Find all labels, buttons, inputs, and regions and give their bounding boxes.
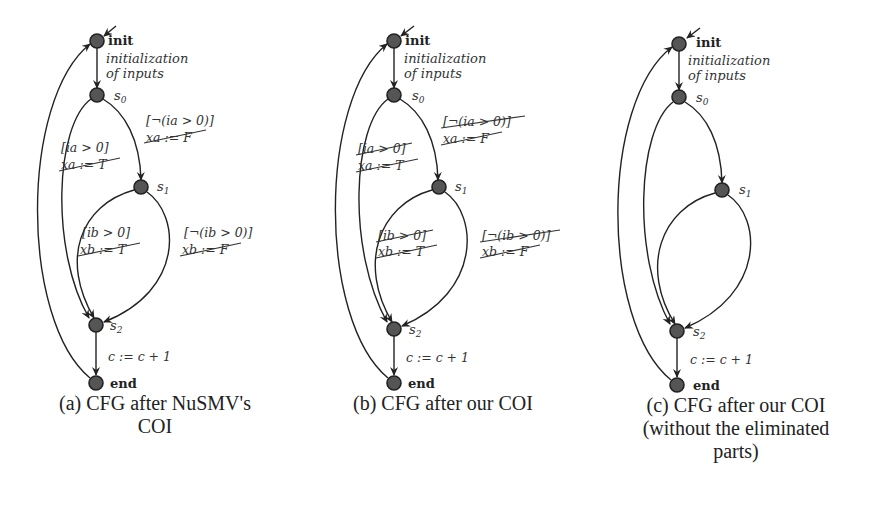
- node-s2: [89, 318, 103, 332]
- caption-c-line-3: parts): [598, 440, 874, 463]
- edge-s0-s1: [685, 102, 722, 183]
- node-s1: [134, 180, 148, 194]
- guard-s0-false: [¬(ia > 0)]: [146, 113, 214, 128]
- edge-s1-s2-false: [402, 192, 467, 326]
- edge-s0-s1: [103, 99, 141, 180]
- caption-b-line-1: (b) CFG after our COI: [318, 392, 568, 415]
- label-s1: s1: [157, 179, 169, 196]
- label-s0: s0: [114, 88, 127, 105]
- label-s1: s1: [455, 179, 467, 196]
- label-s0: s0: [696, 90, 709, 107]
- label-init-edge-2: of inputs: [404, 66, 462, 81]
- edge-s0-s1: [400, 99, 438, 180]
- label-init-edge-2: of inputs: [688, 68, 746, 83]
- node-s0: [387, 88, 401, 102]
- node-end: [387, 376, 401, 390]
- edge-s1-s2-left: [658, 193, 715, 324]
- node-s0: [90, 88, 104, 102]
- label-end: end: [693, 378, 720, 393]
- caption-a: (a) CFG after NuSMV's COI: [20, 392, 290, 438]
- node-init: [90, 34, 104, 48]
- guard-s1-true: [ib > 0]: [378, 228, 426, 243]
- node-s2: [670, 324, 684, 338]
- node-init: [387, 34, 401, 48]
- label-s2-edge: c := c + 1: [690, 352, 753, 367]
- edge-end-init: [618, 47, 672, 380]
- label-s2-edge: c := c + 1: [406, 350, 469, 365]
- caption-a-line-2: COI: [20, 415, 290, 438]
- edge-s1-s2-right: [685, 195, 751, 328]
- assign-s0-false: xa := F: [443, 131, 490, 146]
- label-s0: s0: [412, 88, 425, 105]
- node-s1: [432, 180, 446, 194]
- edge-s0-s2: [359, 99, 388, 322]
- label-s2: s2: [110, 318, 123, 335]
- panel-b-graph: init initialization of inputs s0 s1 s2 e…: [335, 26, 560, 391]
- assign-s1-false: xb := F: [182, 242, 230, 257]
- label-init: init: [405, 33, 430, 48]
- panel-a-graph: init initialization of inputs s0 s1 s2 e…: [38, 26, 253, 391]
- edge-s0-s2: [62, 99, 91, 318]
- caption-a-line-1: (a) CFG after NuSMV's: [20, 392, 290, 415]
- node-init: [672, 37, 686, 51]
- node-s2: [387, 322, 401, 336]
- label-init-edge-2: of inputs: [106, 66, 164, 81]
- edge-end-init: [335, 44, 388, 378]
- node-end: [670, 378, 684, 392]
- guard-s1-true: [ib > 0]: [82, 225, 130, 240]
- label-s2: s2: [409, 322, 422, 339]
- caption-c-line-1: (c) CFG after our COI: [598, 394, 874, 417]
- caption-c-line-2: (without the eliminated: [598, 417, 874, 440]
- assign-s1-true: xb := T: [80, 242, 128, 257]
- label-end: end: [408, 376, 435, 391]
- label-init-edge-1: initialization: [688, 53, 770, 68]
- edge-end-init: [38, 44, 91, 378]
- assign-s1-false: xb := F: [482, 244, 530, 259]
- guard-s1-false: [¬(ib > 0)]: [184, 225, 252, 240]
- panel-c-graph: init initialization of inputs s0 s1 s2 e…: [618, 28, 770, 393]
- assign-s0-true: xa := T: [358, 158, 405, 173]
- caption-c: (c) CFG after our COI (without the elimi…: [598, 394, 874, 463]
- label-init: init: [696, 35, 721, 50]
- caption-b: (b) CFG after our COI: [318, 392, 568, 415]
- edge-s1-s2-false: [104, 192, 169, 322]
- node-s0: [672, 90, 686, 104]
- label-init-edge-1: initialization: [404, 51, 486, 66]
- edge-s0-s2: [644, 102, 673, 324]
- label-init: init: [108, 33, 133, 48]
- label-s1: s1: [739, 182, 751, 199]
- node-s1: [715, 183, 729, 197]
- label-s2-edge: c := c + 1: [108, 349, 171, 364]
- guard-s0-true: [ia > 0]: [61, 140, 109, 155]
- label-init-edge-1: initialization: [106, 51, 188, 66]
- guard-s0-true: [ia > 0]: [358, 141, 406, 156]
- node-end: [89, 376, 103, 390]
- label-end: end: [110, 376, 137, 391]
- assign-s1-true: xb := T: [378, 244, 426, 259]
- label-s2: s2: [693, 324, 706, 341]
- assign-s0-true: xa := T: [61, 157, 108, 172]
